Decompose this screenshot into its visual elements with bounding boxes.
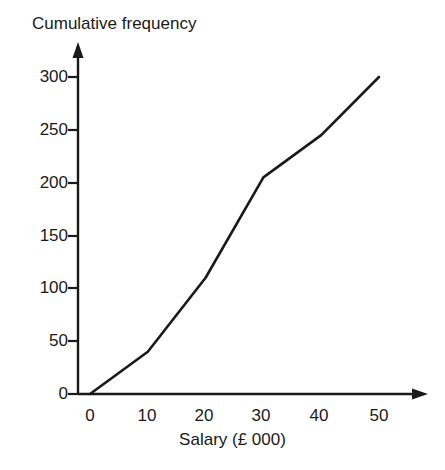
- plot-area: [0, 0, 445, 470]
- y-axis-arrow-icon: [73, 42, 84, 58]
- cumulative-frequency-curve: [90, 77, 379, 394]
- cumulative-frequency-chart: Cumulative frequency 300 250 200 150 100…: [0, 0, 445, 470]
- x-axis-arrow-icon: [412, 389, 428, 400]
- y-axis-ticks: [68, 77, 78, 394]
